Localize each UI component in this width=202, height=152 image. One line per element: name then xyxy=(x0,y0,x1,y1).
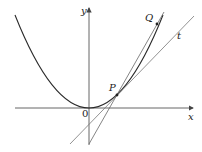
point-p-label: P xyxy=(108,82,116,93)
x-axis-label: x xyxy=(188,111,194,122)
point-p-marker xyxy=(116,94,119,97)
point-q-label: Q xyxy=(145,12,153,23)
origin-label: 0 xyxy=(82,108,88,119)
point-q-marker xyxy=(156,23,159,26)
tangent-label: t xyxy=(177,30,182,41)
y-axis-label: y xyxy=(80,5,87,16)
secant-line xyxy=(89,12,164,144)
diagram-canvas: y x 0 P Q t xyxy=(0,0,202,152)
